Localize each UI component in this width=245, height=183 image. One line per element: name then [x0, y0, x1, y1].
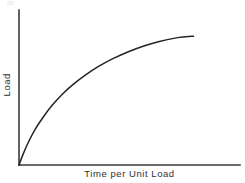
- load-curve: [19, 36, 194, 165]
- plot-area: [0, 0, 245, 183]
- figure-canvas: Load Time per Unit Load: [0, 0, 245, 183]
- y-axis-title: Load: [2, 65, 12, 105]
- x-axis-title: Time per Unit Load: [0, 169, 245, 179]
